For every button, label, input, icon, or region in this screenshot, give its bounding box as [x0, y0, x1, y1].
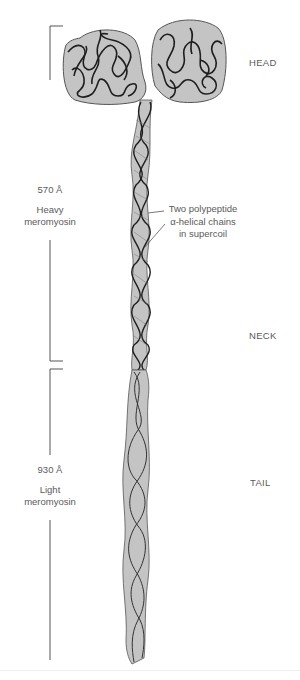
- light-meromyosin-label: 930 Å Light meromyosin: [10, 464, 90, 509]
- head-label: HEAD: [249, 57, 277, 68]
- light-name-line1: Light: [10, 484, 90, 497]
- callout-line3: in supercoil: [160, 228, 246, 241]
- tail-label: TAIL: [250, 477, 271, 488]
- light-meromyosin-bracket: [50, 369, 63, 660]
- callout-line2: α-helical chains: [160, 216, 246, 229]
- myosin-heads: [63, 20, 226, 104]
- heavy-name-line1: Heavy: [10, 204, 90, 217]
- tail-coiled-coil: [123, 370, 150, 664]
- heavy-name-line2: meromyosin: [10, 216, 90, 229]
- light-length: 930 Å: [10, 464, 90, 477]
- callout-line1: Two polypeptide: [160, 203, 246, 216]
- supercoil-callout: Two polypeptide α-helical chains in supe…: [160, 203, 246, 241]
- heavy-meromyosin-label: 570 Å Heavy meromyosin: [10, 184, 90, 229]
- bottom-divider: [0, 670, 300, 671]
- light-name-line2: meromyosin: [10, 496, 90, 509]
- neck-label: NECK: [249, 330, 277, 341]
- neck-coiled-coil: [131, 100, 152, 370]
- heavy-length: 570 Å: [10, 184, 90, 197]
